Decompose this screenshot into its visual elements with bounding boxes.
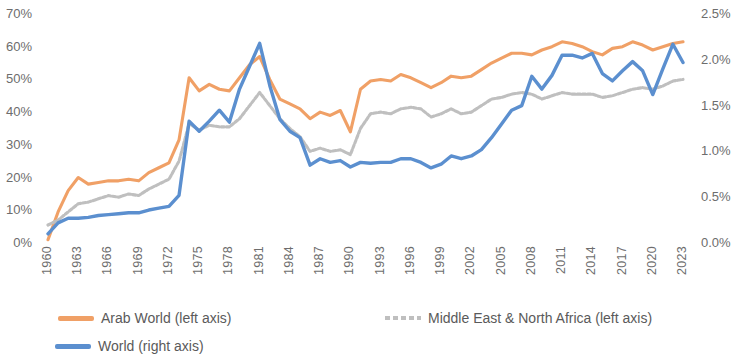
x-axis: 1960196319661969197219751978198119841987… [0,246,734,304]
chart-lines [0,0,734,260]
x-tick-1978: 1978 [222,246,235,275]
x-tick-1996: 1996 [404,246,417,275]
chart-container: 0%10%20%30%40%50%60%70% 0.0%0.5%1.0%1.5%… [0,0,734,363]
legend-item-arab-world[interactable]: Arab World (left axis) [58,310,231,326]
legend-swatch-world [55,344,91,349]
x-tick-2008: 2008 [525,246,538,275]
legend-label-mena: Middle East & North Africa (left axis) [428,310,652,326]
legend-label-world: World (right axis) [98,338,204,354]
x-tick-1993: 1993 [374,246,387,275]
x-tick-2017: 2017 [616,246,629,275]
legend-item-mena[interactable]: Middle East & North Africa (left axis) [385,310,652,326]
x-tick-2011: 2011 [555,246,568,274]
x-tick-1972: 1972 [162,246,175,275]
x-tick-1966: 1966 [101,246,114,275]
x-tick-2002: 2002 [464,246,477,275]
x-tick-2023: 2023 [676,246,689,275]
x-tick-1987: 1987 [313,246,326,275]
x-tick-1990: 1990 [343,246,356,275]
series-line-world [48,43,683,234]
x-tick-1981: 1981 [253,246,266,275]
x-tick-1960: 1960 [41,246,54,275]
legend-label-arab-world: Arab World (left axis) [101,310,231,326]
plot-area [0,0,734,260]
x-tick-1975: 1975 [192,246,205,275]
x-tick-2005: 2005 [495,246,508,275]
series-line-mena [48,79,683,225]
legend-swatch-mena [385,316,421,320]
x-tick-1969: 1969 [132,246,145,275]
x-tick-1984: 1984 [283,246,296,275]
x-tick-1963: 1963 [71,246,84,275]
x-tick-1999: 1999 [434,246,447,275]
legend-swatch-arab-world [58,316,94,321]
x-tick-2020: 2020 [646,246,659,275]
legend-item-world[interactable]: World (right axis) [55,338,204,354]
chart-legend: Arab World (left axis) Middle East & Nor… [0,306,734,363]
x-tick-2014: 2014 [585,246,598,275]
